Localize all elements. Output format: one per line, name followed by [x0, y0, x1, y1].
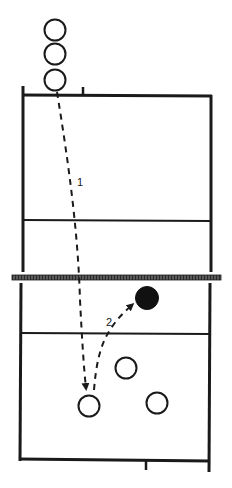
path-1-dashed-arrow [57, 92, 86, 388]
top-attack-line [23, 220, 211, 221]
bottom-attack-line [21, 333, 210, 334]
solid-player-near-net [136, 287, 159, 310]
queued-player-2 [45, 44, 66, 65]
bottom-right-player [147, 393, 168, 414]
bottom-baseline [19, 459, 210, 461]
right-sideline-lower [209, 283, 210, 472]
movement-paths: 1 2 [57, 92, 132, 390]
volleyball-court-diagram: 1 2 [0, 0, 232, 488]
bottom-middle-player [116, 358, 137, 379]
bottom-left-player [79, 396, 100, 417]
path-2-label: 2 [106, 316, 112, 328]
path-1-label: 1 [77, 176, 83, 188]
top-baseline [22, 95, 212, 96]
server-player [45, 70, 66, 91]
net [12, 275, 221, 280]
queued-player-1 [45, 20, 66, 41]
court-lines [12, 86, 221, 472]
players [45, 20, 168, 417]
left-sideline-lower [20, 283, 21, 461]
